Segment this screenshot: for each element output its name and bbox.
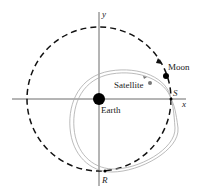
- earth-label: Earth: [101, 105, 121, 115]
- point-s-label: S: [173, 88, 178, 98]
- moon-label: Moon: [168, 62, 190, 72]
- satellite: [148, 81, 152, 85]
- earth: [93, 93, 105, 105]
- moon-direction-arrow: [156, 58, 162, 64]
- moon: [163, 73, 169, 79]
- orbit-diagram: Earth Moon Satellite S R x y: [0, 0, 202, 189]
- satellite-label: Satellite: [114, 80, 144, 90]
- point-r: [104, 170, 107, 173]
- x-axis-label: x: [181, 99, 186, 109]
- point-r-label: R: [101, 175, 108, 185]
- y-axis-label: y: [101, 9, 106, 19]
